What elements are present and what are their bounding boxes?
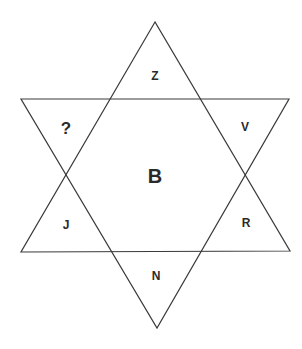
label-upper-right: V (241, 120, 249, 134)
label-center: B (148, 165, 162, 187)
label-lower-left: J (63, 218, 70, 232)
hexagram-diagram: Z ? V B J R N (0, 0, 302, 349)
label-upper-left-unknown: ? (61, 119, 71, 138)
label-bottom: N (152, 269, 161, 283)
label-lower-right: R (242, 216, 251, 230)
label-top: Z (151, 69, 158, 83)
